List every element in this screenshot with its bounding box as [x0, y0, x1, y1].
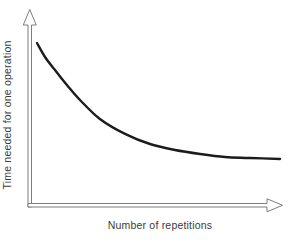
learning-curve-line — [37, 43, 280, 159]
learning-curve-chart: Time needed for one operation Number of … — [0, 0, 289, 243]
x-axis-arrow — [28, 199, 283, 212]
y-axis-arrow — [23, 10, 36, 208]
y-axis-label: Time needed for one operation — [1, 40, 13, 189]
x-axis-label: Number of repetitions — [108, 219, 213, 231]
chart-canvas: Time needed for one operation Number of … — [0, 0, 289, 243]
